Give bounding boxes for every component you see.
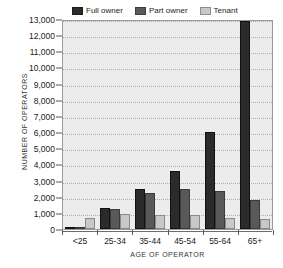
- x-axis-tick-label: 25-34: [104, 236, 126, 246]
- cutoff-text: · · ·: [74, 0, 88, 2]
- y-axis-tick-labels: 13,00012,00011,00010,0009,0008,0007,0006…: [0, 20, 62, 230]
- y-axis-tick-label: 8,000: [34, 96, 55, 106]
- bar-group: [170, 21, 200, 229]
- bar-tenant: [190, 215, 200, 229]
- y-axis-tick-label: 10,000: [29, 63, 55, 73]
- bar-tenant: [260, 219, 270, 230]
- bar-tenant: [85, 218, 95, 229]
- x-axis-tick-label: 35-44: [139, 236, 161, 246]
- x-axis-tick: [238, 230, 239, 235]
- x-axis-tick: [97, 230, 98, 235]
- legend-swatch-full-owner-icon: [72, 7, 83, 15]
- y-axis-tick-label: 5,000: [34, 144, 55, 154]
- legend-item-full-owner: Full owner: [72, 7, 123, 15]
- x-axis-tick: [273, 230, 274, 235]
- chart-legend: Full owner Part owner Tenant: [72, 5, 278, 16]
- x-axis-ticks: [62, 230, 273, 235]
- x-axis-tick: [168, 230, 169, 235]
- bar-tenant: [120, 214, 130, 229]
- plot-area: [62, 20, 273, 230]
- legend-label-part-owner: Part owner: [149, 7, 188, 15]
- bar-part-owner: [110, 209, 120, 229]
- bar-group: [135, 21, 165, 229]
- bar-full-owner: [240, 21, 250, 229]
- legend-label-tenant: Tenant: [214, 7, 238, 15]
- y-axis-tick-label: 11,000: [30, 47, 55, 57]
- bar-group: [240, 21, 270, 229]
- x-axis-tick-label: <25: [73, 236, 87, 246]
- y-axis-tick-label: 0: [50, 225, 55, 235]
- legend-item-tenant: Tenant: [200, 7, 238, 15]
- bar-group: [100, 21, 130, 229]
- x-axis-tick-label: 65+: [248, 236, 262, 246]
- y-axis-tick-label: 1,000: [34, 209, 55, 219]
- bar-full-owner: [100, 208, 110, 229]
- y-axis-tick-label: 4,000: [34, 160, 55, 170]
- bar-chart-figure: · · · Full owner Part owner Tenant NUMBE…: [0, 0, 283, 268]
- bar-full-owner: [135, 189, 145, 229]
- bar-tenant: [155, 215, 165, 229]
- y-axis-tick-label: 13,000: [29, 15, 55, 25]
- bar-full-owner: [65, 227, 75, 229]
- legend-swatch-tenant-icon: [200, 7, 211, 15]
- bar-full-owner: [205, 132, 215, 229]
- x-axis-tick: [203, 230, 204, 235]
- y-axis-tick-label: 3,000: [34, 177, 55, 187]
- bar-part-owner: [75, 227, 85, 229]
- x-axis-tick-label: 55-64: [209, 236, 231, 246]
- bar-full-owner: [170, 171, 180, 229]
- y-axis-tick-label: 2,000: [34, 193, 55, 203]
- bar-part-owner: [145, 193, 155, 229]
- legend-label-full-owner: Full owner: [86, 7, 123, 15]
- bar-group: [205, 21, 235, 229]
- x-axis-tick: [62, 230, 63, 235]
- x-axis-title: AGE OF OPERATOR: [62, 251, 273, 258]
- y-axis-tick-label: 6,000: [34, 128, 55, 138]
- legend-item-part-owner: Part owner: [135, 7, 188, 15]
- plot-area-wrapper: [62, 20, 273, 230]
- y-axis-tick-label: 7,000: [34, 112, 55, 122]
- bar-group: [65, 21, 95, 229]
- x-axis-tick-labels: <2525-3435-4445-5455-6465+: [62, 236, 273, 248]
- bar-tenant: [225, 218, 235, 229]
- bar-part-owner: [215, 191, 225, 229]
- bar-part-owner: [250, 200, 260, 229]
- y-axis-tick-label: 9,000: [34, 80, 55, 90]
- y-axis-tick-label: 12,000: [29, 31, 55, 41]
- bar-part-owner: [180, 189, 190, 229]
- legend-swatch-part-owner-icon: [135, 7, 146, 15]
- x-axis-tick: [132, 230, 133, 235]
- bar-groups: [63, 21, 272, 229]
- x-axis-tick-label: 45-54: [174, 236, 196, 246]
